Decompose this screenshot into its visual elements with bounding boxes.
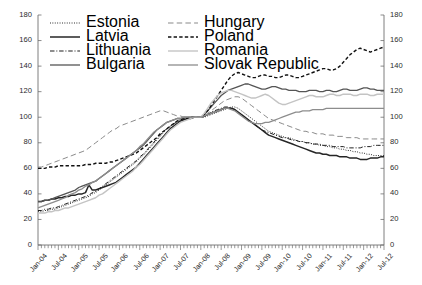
y-axis-left-tick-label: 60 [4, 164, 32, 172]
legend-swatch-romania [168, 46, 198, 56]
y-axis-right-tick-label: 40 [390, 189, 418, 197]
y-axis-left-tick-label: 140 [4, 62, 32, 70]
legend-label-latvia: Latvia [86, 31, 129, 40]
legend-swatch-estonia [50, 18, 80, 28]
legend-swatch-bulgaria [50, 60, 80, 70]
y-axis-left-tick-label: 80 [4, 138, 32, 146]
legend-label-hungary: Hungary [204, 17, 264, 26]
y-axis-right-tick-label: 140 [390, 62, 418, 70]
legend-swatch-latvia [50, 32, 80, 42]
y-axis-right-tick-label: 100 [390, 113, 418, 121]
y-axis-left-tick-label: 120 [4, 87, 32, 95]
y-axis-left-tick-label: 180 [4, 11, 32, 19]
y-axis-left-tick-label: 0 [4, 241, 32, 249]
y-axis-left-tick-label: 100 [4, 113, 32, 121]
y-axis-right-tick-label: 60 [390, 164, 418, 172]
series-line-lithuania [38, 107, 384, 211]
legend-label-slovak-republic: Slovak Republic [204, 59, 319, 68]
chart-container: 020406080100120140160180 020406080100120… [0, 0, 422, 285]
y-axis-left-tick-label: 160 [4, 36, 32, 44]
legend-swatch-hungary [168, 18, 198, 28]
y-axis-right-tick-label: 180 [390, 11, 418, 19]
legend-swatch-lithuania [50, 46, 80, 56]
legend-label-estonia: Estonia [86, 17, 139, 26]
series-line-estonia [38, 107, 384, 212]
legend-label-bulgaria: Bulgaria [86, 59, 145, 68]
legend-label-lithuania: Lithuania [86, 45, 151, 54]
y-axis-right-tick-label: 120 [390, 87, 418, 95]
y-axis-right-tick-label: 80 [390, 138, 418, 146]
y-axis-right-tick-label: 20 [390, 215, 418, 223]
legend-label-romania: Romania [204, 45, 268, 54]
series-line-latvia [38, 108, 384, 201]
legend-label-poland: Poland [204, 31, 254, 40]
legend-swatch-poland [168, 32, 198, 42]
y-axis-left-tick-label: 40 [4, 189, 32, 197]
series-line-slovak-republic [38, 108, 384, 208]
y-axis-right-tick-label: 0 [390, 241, 418, 249]
legend-swatch-slovak-republic [168, 60, 198, 70]
y-axis-right-tick-label: 160 [390, 36, 418, 44]
y-axis-left-tick-label: 20 [4, 215, 32, 223]
